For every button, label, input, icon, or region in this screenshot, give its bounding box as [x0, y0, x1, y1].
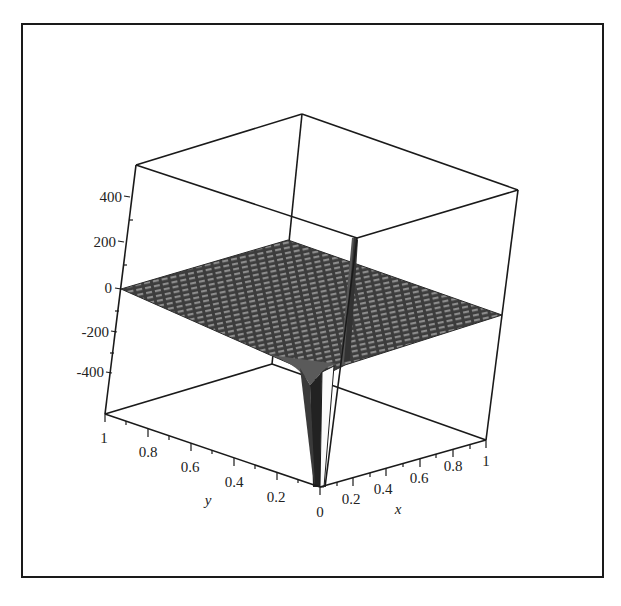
y-tick-0.2: 0.2 — [267, 489, 286, 505]
z-tick-200: 200 — [94, 234, 117, 250]
x-tick-1: 1 — [482, 453, 490, 469]
surface-mesh — [121, 240, 502, 385]
x-tick-0.6: 0.6 — [410, 470, 429, 486]
y-tick-0.4: 0.4 — [225, 474, 244, 490]
surface-plot-canvas: 400 200 0 -200 -400 1 0.8 0.6 0.4 0.2 0 — [0, 0, 621, 606]
y-tick-labels: 1 0.8 0.6 0.4 0.2 0 y — [100, 430, 324, 520]
z-tick-neg400: -400 — [77, 364, 105, 380]
y-axis-label: y — [203, 492, 212, 508]
y-tick-0.6: 0.6 — [181, 459, 200, 475]
x-tick-0.8: 0.8 — [444, 458, 463, 474]
z-tick-400: 400 — [100, 189, 123, 205]
x-tick-0.4: 0.4 — [374, 481, 393, 497]
z-tick-neg200: -200 — [82, 324, 110, 340]
x-tick-labels: 0.2 0.4 0.6 0.8 1 x — [342, 453, 490, 517]
y-tick-1: 1 — [100, 430, 108, 446]
x-tick-0.2: 0.2 — [342, 491, 361, 507]
y-tick-0.8: 0.8 — [139, 444, 158, 460]
z-tick-labels: 400 200 0 -200 -400 — [77, 189, 123, 380]
y-tick-0: 0 — [316, 504, 324, 520]
x-axis-label: x — [394, 501, 402, 517]
plot-figure: 400 200 0 -200 -400 1 0.8 0.6 0.4 0.2 0 — [0, 0, 621, 606]
z-tick-0: 0 — [105, 280, 113, 296]
